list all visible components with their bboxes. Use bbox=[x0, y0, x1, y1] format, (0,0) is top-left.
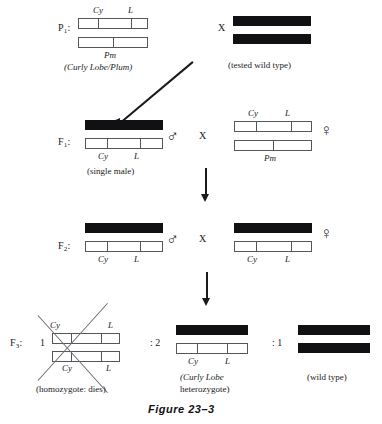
tick-l bbox=[227, 344, 228, 353]
chromosome-bar-f1-female-bottom bbox=[234, 140, 312, 151]
caption-f3-heterozygote-line1: (Curly Lobe bbox=[180, 372, 224, 383]
chromosome-bar-p1-wildtype-bottom bbox=[233, 34, 311, 44]
chromosome-bar-f3-wildtype-top bbox=[298, 325, 370, 335]
ratio-wildtype: : 1 bbox=[272, 337, 282, 348]
tick-l bbox=[291, 122, 292, 131]
tick-l bbox=[131, 19, 132, 28]
gene-label-cy: Cy bbox=[93, 5, 103, 15]
ratio-heterozygote: : 2 bbox=[150, 337, 160, 348]
figure-caption: Figure 23–3 bbox=[148, 403, 215, 415]
tick-l bbox=[101, 334, 102, 343]
gene-label-cy: Cy bbox=[248, 108, 258, 118]
gene-label-pm: Pm bbox=[264, 153, 276, 163]
chromosome-bar-f3-wildtype-bottom bbox=[298, 343, 370, 353]
gene-label-l: L bbox=[108, 320, 113, 330]
gene-label-l: L bbox=[134, 151, 139, 161]
chromosome-bar-f1-female-top bbox=[234, 121, 312, 132]
gene-label-pm: Pm bbox=[104, 50, 116, 60]
chromosome-bar-f2-male-top bbox=[85, 223, 163, 233]
female-symbol-f2: ♀ bbox=[320, 225, 333, 242]
gene-label-cy: Cy bbox=[98, 254, 108, 264]
chromosome-bar-p1-pm bbox=[78, 37, 148, 48]
caption-f3-heterozygote-line2: heterozygote) bbox=[180, 384, 229, 395]
arrow-vertical-f2-to-f3 bbox=[206, 272, 208, 300]
gene-label-cy: Cy bbox=[62, 363, 72, 373]
caption-f1-male: (single male) bbox=[87, 166, 134, 177]
gene-label-l: L bbox=[225, 356, 230, 366]
caption-p1-left: (Curly Lobe/Plum) bbox=[64, 62, 132, 73]
tick-cy bbox=[98, 19, 99, 28]
chromosome-bar-f1-male-bottom bbox=[85, 138, 163, 149]
generation-label-f1: F1: bbox=[58, 136, 70, 149]
chromosome-bar-f3-heterozygote-top bbox=[176, 325, 248, 335]
tick-l bbox=[140, 139, 141, 148]
figure-canvas: P1: Cy L Pm (Curly Lobe/Plum) X (tested … bbox=[0, 0, 382, 424]
tick-pm bbox=[273, 141, 274, 150]
chromosome-bar-f2-female-bottom bbox=[234, 241, 312, 252]
gene-label-cy: Cy bbox=[50, 320, 60, 330]
cross-symbol-f2: X bbox=[199, 233, 206, 244]
cross-symbol-f1: X bbox=[199, 130, 206, 141]
cross-symbol-p1: X bbox=[218, 22, 225, 33]
gene-label-cy: Cy bbox=[98, 151, 108, 161]
chromosome-bar-f2-female-top bbox=[234, 223, 312, 233]
tick-cy bbox=[256, 122, 257, 131]
caption-f3-homozygote: (homozygote: dies) bbox=[36, 384, 106, 395]
tick-cy bbox=[197, 344, 198, 353]
tick-l bbox=[291, 242, 292, 251]
gene-label-l: L bbox=[134, 254, 139, 264]
male-symbol-f2: ♂ bbox=[166, 231, 179, 248]
chromosome-bar-f2-male-bottom bbox=[85, 241, 163, 252]
arrow-vertical-f1-to-f2 bbox=[205, 168, 207, 196]
generation-label-f2: F2: bbox=[58, 240, 70, 253]
chromosome-bar-p1-wildtype-top bbox=[233, 16, 311, 26]
gene-label-cy: Cy bbox=[247, 254, 257, 264]
ratio-homozygote: 1 bbox=[40, 337, 45, 348]
generation-label-f3: F3: bbox=[10, 337, 22, 350]
caption-f3-wildtype: (wild type) bbox=[307, 372, 347, 383]
gene-label-l: L bbox=[285, 254, 290, 264]
tick-cy bbox=[256, 242, 257, 251]
gene-label-l: L bbox=[285, 108, 290, 118]
gene-label-l: L bbox=[106, 363, 111, 373]
caption-p1-right: (tested wild type) bbox=[228, 60, 291, 71]
chromosome-bar-p1-cy-l bbox=[78, 18, 148, 29]
gene-label-cy: Cy bbox=[188, 356, 198, 366]
arrow-vertical-head-f1 bbox=[201, 194, 209, 202]
tick-l bbox=[140, 242, 141, 251]
tick-pm bbox=[113, 38, 114, 47]
generation-label-p1: P1: bbox=[58, 22, 70, 35]
tick-cy bbox=[107, 139, 108, 148]
tick-l bbox=[101, 352, 102, 361]
tick-cy bbox=[107, 242, 108, 251]
chromosome-bar-f3-heterozygote-bottom bbox=[176, 343, 248, 354]
male-symbol-f1: ♂ bbox=[166, 128, 179, 145]
female-symbol-f1: ♀ bbox=[320, 122, 333, 139]
arrow-vertical-head-f2 bbox=[202, 298, 210, 306]
gene-label-l: L bbox=[128, 5, 133, 15]
chromosome-bar-f1-male-top bbox=[85, 120, 163, 130]
